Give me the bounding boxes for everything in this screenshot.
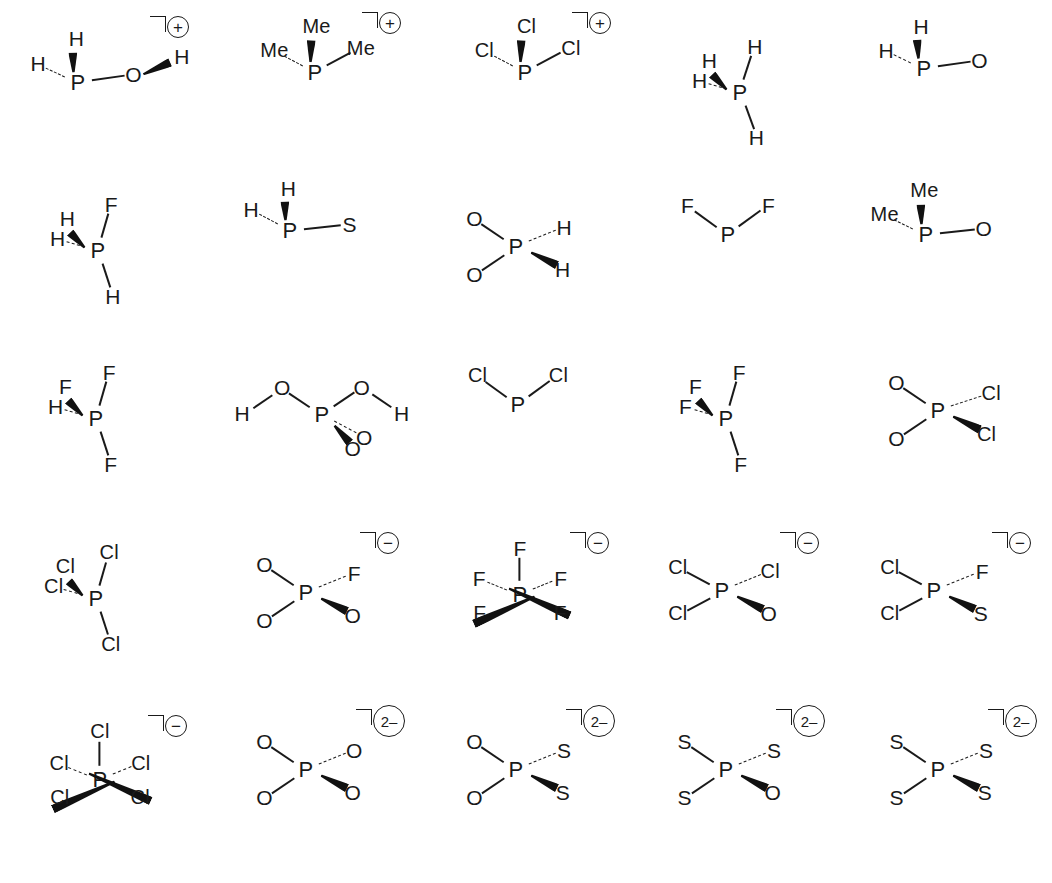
substituent-atom: O (888, 372, 905, 393)
substituent-atom: S (979, 739, 993, 760)
structure-s21: PClClClClCl− (0, 705, 210, 881)
charge-annotation: + (150, 16, 189, 38)
central-atom: P (299, 582, 314, 603)
bond-dash (894, 54, 912, 63)
charge-annotation: − (570, 532, 609, 554)
substituent-atom: Me (260, 40, 288, 61)
substituent-atom: H (702, 50, 717, 71)
bond-plain (482, 778, 505, 795)
substituent-atom: Cl (50, 752, 69, 773)
substituent-atom: F (976, 560, 989, 581)
structure-s15: POOClCl (842, 348, 1052, 524)
substituent-atom: F (104, 453, 117, 474)
bond-plain (98, 562, 106, 586)
structure-s10: PMeMeO (842, 178, 1052, 354)
central-atom: P (917, 58, 932, 79)
bond-dash (68, 767, 87, 775)
charge-annotation: − (992, 532, 1031, 554)
bond-dash (739, 752, 766, 764)
terminal-atom: H (235, 403, 250, 424)
substituent-atom: H (48, 396, 63, 417)
charge-annotation: − (148, 715, 187, 737)
substituent-atom: Cl (517, 16, 536, 37)
structure-s20: PClClFS− (842, 528, 1052, 704)
bond-plain (903, 388, 926, 405)
central-atom: P (719, 408, 734, 429)
central-atom: P (919, 224, 934, 245)
bond-wedge (529, 772, 559, 793)
bond-dash (487, 581, 507, 590)
bond-plain (528, 380, 550, 397)
substituent-atom: Me (871, 203, 899, 224)
structure-s3: PClClCl+ (420, 10, 630, 186)
bond-wedge (66, 578, 86, 599)
bond-plain (904, 778, 927, 795)
substituent-atom: H (879, 39, 894, 60)
structure-s22: POOOO2– (210, 705, 420, 881)
bond-plain (289, 393, 311, 408)
terminal-atom: H (394, 403, 409, 424)
central-atom: P (91, 240, 106, 261)
central-atom: P (509, 759, 524, 780)
bond-plain (898, 572, 922, 586)
bond-dash (947, 573, 974, 585)
substituent-atom: O (344, 781, 361, 802)
bond-plain (518, 558, 520, 581)
substituent-atom: H (60, 208, 75, 229)
charge-circle: − (1009, 532, 1031, 554)
bond-dash (113, 766, 132, 774)
substituent-atom: H (557, 216, 572, 237)
substituent-atom: H (30, 53, 45, 74)
bond-plain (738, 209, 761, 226)
central-atom: P (931, 400, 946, 421)
charge-circle: 2– (1005, 705, 1037, 737)
substituent-atom: O (466, 786, 483, 807)
bond-plain (271, 747, 294, 764)
substituent-atom: H (749, 127, 764, 148)
charge-circle: 2– (583, 705, 615, 737)
substituent-atom: Cl (475, 40, 494, 61)
bond-plain (272, 778, 295, 795)
bond-dash (46, 68, 66, 78)
bond-plain (691, 747, 714, 764)
bond-plain (92, 75, 125, 81)
structure-grid: PHHOH+PMeMeMe+PClClCl+PHHHHPHHOPFHHHPHHS… (0, 0, 1052, 883)
substituent-atom: F (103, 361, 116, 382)
substituent-atom: O (466, 208, 483, 229)
central-atom: P (719, 759, 734, 780)
substituent-atom: S (974, 602, 988, 623)
substituent-atom: H (555, 258, 570, 279)
structure-s12: POHOHOO (210, 348, 420, 524)
charge-circle: 2– (793, 705, 825, 737)
bond-wedge (65, 397, 86, 418)
bracket-icon (988, 709, 1004, 725)
bond-plain (537, 52, 562, 66)
substituent-atom: F (105, 193, 118, 214)
bond-dash (951, 752, 978, 764)
substituent-atom: Me (303, 16, 331, 37)
charge-annotation: 2– (988, 709, 1037, 737)
structure-s17: POOFO− (210, 528, 420, 704)
substituent-atom: O (466, 263, 483, 284)
substituent-atom: F (473, 567, 486, 588)
substituent-atom: F (554, 601, 567, 622)
substituent-atom: S (677, 731, 691, 752)
structure-s25: PSSSS2– (842, 705, 1052, 881)
substituent-atom: Cl (56, 556, 75, 577)
substituent-atom: H (692, 70, 707, 91)
substituent-atom: Me (347, 37, 375, 58)
charge-annotation: 2– (356, 709, 405, 737)
substituent-atom: O (125, 64, 142, 85)
bond-plain (485, 381, 507, 398)
central-atom: P (315, 404, 330, 425)
substituent-atom: F (689, 376, 702, 397)
substituent-atom: S (343, 213, 357, 234)
bracket-icon (570, 532, 586, 548)
charge-circle: − (165, 715, 187, 737)
substituent-atom: H (50, 228, 65, 249)
bracket-icon (362, 12, 378, 28)
substituent-atom: F (734, 453, 747, 474)
bond-wedge (67, 229, 88, 250)
substituent-atom: S (889, 786, 903, 807)
substituent-atom: O (346, 739, 363, 760)
